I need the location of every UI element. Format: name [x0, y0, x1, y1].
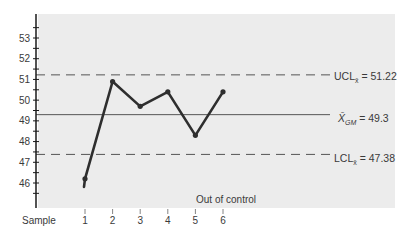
x-tick-label: 2 [110, 215, 116, 226]
x-tick-label: 4 [165, 215, 171, 226]
y-axis: 4647484950515253 [19, 14, 39, 208]
y-tick-label: 46 [19, 178, 31, 189]
y-tick-label: 47 [19, 157, 31, 168]
data-point [220, 89, 225, 94]
x-tick-label: 6 [220, 215, 226, 226]
y-tick-label: 52 [19, 53, 31, 64]
x-axis-title: Sample [22, 215, 56, 226]
y-tick-label: 50 [19, 95, 31, 106]
x-tick-label: 1 [82, 215, 88, 226]
data-point [82, 176, 87, 181]
x-axis: 123456 [82, 209, 226, 226]
y-tick-label: 49 [19, 115, 31, 126]
y-tick-label: 48 [19, 136, 31, 147]
control-chart: 4647484950515253 123456 UCLx̄ = 51.22 X̄… [0, 0, 417, 235]
grand-mean-label: X̄GM = 49.3 [337, 112, 389, 126]
y-tick-label: 51 [19, 74, 31, 85]
data-point [165, 89, 170, 94]
lcl-label: LCLx̄ = 47.38 [334, 152, 395, 166]
x-tick-label: 5 [193, 215, 199, 226]
out-of-control-annotation: Out of control [196, 194, 256, 205]
plot-background [38, 14, 395, 208]
data-point [138, 104, 143, 109]
data-point [110, 79, 115, 84]
y-tick-label: 53 [19, 33, 31, 44]
data-point [193, 133, 198, 138]
ucl-label: UCLx̄ = 51.22 [334, 70, 397, 84]
x-tick-label: 3 [137, 215, 143, 226]
